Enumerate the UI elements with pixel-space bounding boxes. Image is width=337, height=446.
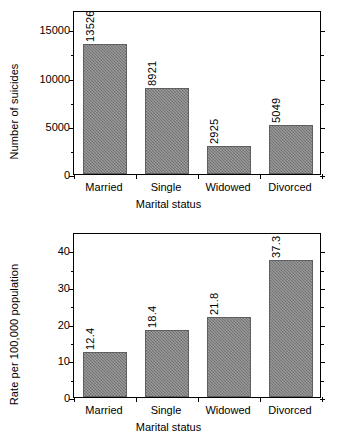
bar-value-label: 37.3 — [270, 236, 282, 258]
y-axis-tick — [320, 31, 325, 32]
x-axis-tick — [198, 174, 199, 179]
y-axis-minor-tick — [320, 104, 324, 105]
y-axis-title: Rate per 100,000 population — [6, 223, 22, 446]
y-axis-tick — [320, 252, 325, 253]
y-axis-minor-tick — [71, 307, 75, 308]
y-axis-minor-tick — [320, 307, 324, 308]
bar-value-label: 21.8 — [208, 293, 220, 315]
y-axis-tick-label: 5000 — [46, 121, 70, 133]
x-axis-category-label: Divorced — [268, 404, 311, 416]
y-axis-minor-tick — [320, 55, 324, 56]
y-axis-tick-label: 0 — [64, 169, 70, 181]
y-axis-tick-label: 15000 — [39, 24, 70, 36]
y-axis-tick-label: 10000 — [39, 73, 70, 85]
x-axis-title: Marital status — [0, 198, 337, 210]
plot-area: 12.418.421.837.3 — [73, 233, 321, 398]
y-axis-tick — [320, 80, 325, 81]
y-axis-tick-label: 0 — [64, 392, 70, 404]
x-axis-tick — [136, 174, 137, 179]
x-axis-tick — [198, 397, 199, 402]
y-axis-minor-tick — [71, 152, 75, 153]
plot-area: 13526892129255049 — [73, 11, 321, 175]
x-axis-tick — [260, 397, 261, 402]
x-axis-category-label: Widowed — [205, 181, 250, 193]
bar — [269, 260, 314, 397]
x-axis-tick — [322, 397, 323, 402]
bar — [145, 330, 190, 397]
x-axis-category-label: Married — [85, 404, 122, 416]
bar-value-label: 12.4 — [84, 327, 96, 349]
bar-value-label: 2925 — [208, 119, 220, 144]
x-axis-tick — [74, 174, 75, 179]
x-axis-category-label: Single — [151, 404, 182, 416]
y-axis-title: Number of suicides — [6, 0, 22, 223]
y-axis-minor-tick — [71, 271, 75, 272]
bar-value-label: 5049 — [270, 98, 282, 123]
y-axis-minor-tick — [71, 104, 75, 105]
y-axis-minor-tick — [320, 271, 324, 272]
x-axis-tick — [322, 174, 323, 179]
bar-value-label: 18.4 — [146, 305, 158, 327]
y-axis-tick — [320, 289, 325, 290]
y-axis-minor-tick — [71, 55, 75, 56]
y-axis-minor-tick — [320, 344, 324, 345]
x-axis-tick — [74, 397, 75, 402]
x-axis-category-label: Single — [151, 181, 182, 193]
y-axis-tick-label: 30 — [58, 282, 70, 294]
suicide-count-chart: Number of suicides 13526892129255049 Mar… — [0, 0, 337, 223]
x-axis-category-label: Divorced — [268, 181, 311, 193]
bar — [207, 317, 252, 397]
bar — [145, 88, 190, 174]
y-axis-minor-tick — [71, 381, 75, 382]
y-axis-tick-label: 10 — [58, 355, 70, 367]
y-axis-minor-tick — [71, 344, 75, 345]
y-axis-tick — [320, 128, 325, 129]
suicide-rate-chart: Rate per 100,000 population 12.418.421.8… — [0, 223, 337, 446]
bar — [83, 44, 128, 174]
x-axis-tick — [136, 397, 137, 402]
bar — [269, 125, 314, 174]
x-axis-category-label: Married — [85, 181, 122, 193]
y-axis-minor-tick — [320, 381, 324, 382]
y-axis-tick — [320, 362, 325, 363]
y-axis-tick-label: 40 — [58, 245, 70, 257]
y-axis-minor-tick — [320, 152, 324, 153]
bar-value-label: 8921 — [146, 61, 158, 86]
bar — [83, 352, 128, 397]
x-axis-category-label: Widowed — [205, 404, 250, 416]
bar-value-label: 13526 — [84, 10, 96, 42]
bar — [207, 146, 252, 174]
x-axis-title: Marital status — [0, 421, 337, 433]
x-axis-tick — [260, 174, 261, 179]
y-axis-tick — [320, 326, 325, 327]
y-axis-tick-label: 20 — [58, 319, 70, 331]
